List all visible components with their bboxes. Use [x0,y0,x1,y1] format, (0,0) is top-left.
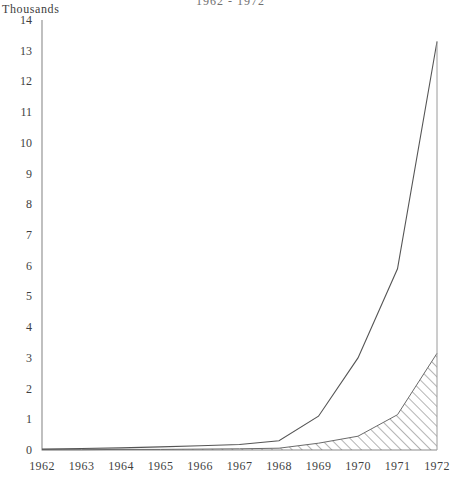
axis-lines [42,20,437,450]
hatched-series-area [42,353,437,450]
chart-container: 1962 - 1972 Thousands 012345678910111213… [0,0,461,478]
total-series-line [42,42,437,450]
plot-area [0,0,461,478]
